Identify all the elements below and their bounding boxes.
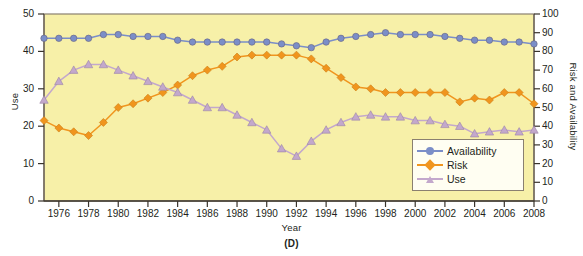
y-left-tick-50: 50 — [8, 8, 34, 19]
y-right-tick-10: 10 — [542, 176, 572, 187]
data-point — [427, 31, 433, 37]
chart-figure: Use Risk and Availability Year (D) 01020… — [0, 0, 583, 256]
legend-swatch-use — [417, 173, 443, 185]
data-point — [70, 35, 76, 41]
data-point — [293, 43, 299, 49]
data-point — [471, 37, 477, 43]
y-right-tick-40: 40 — [542, 120, 572, 131]
y-right-tick-60: 60 — [542, 83, 572, 94]
legend-swatch-risk — [417, 159, 443, 171]
y-right-tick-80: 80 — [542, 45, 572, 56]
y-left-tick-30: 30 — [8, 83, 34, 94]
data-point — [323, 39, 329, 45]
y-left-tick-20: 20 — [8, 120, 34, 131]
legend-item-availability[interactable]: Availability — [417, 144, 518, 158]
legend-label-availability: Availability — [447, 145, 496, 157]
data-point — [189, 39, 195, 45]
data-point — [264, 39, 270, 45]
legend-swatch-availability — [417, 145, 443, 157]
data-point — [249, 39, 255, 45]
data-point — [41, 35, 47, 41]
legend-marker-triangle — [426, 176, 434, 183]
panel-label: (D) — [0, 238, 583, 249]
data-point — [516, 39, 522, 45]
legend-label-risk: Risk — [447, 159, 467, 171]
data-point — [278, 41, 284, 47]
data-point — [115, 31, 121, 37]
y-right-tick-70: 70 — [542, 64, 572, 75]
data-point — [174, 37, 180, 43]
legend-marker-circle — [426, 147, 434, 155]
data-point — [486, 37, 492, 43]
y-right-tick-50: 50 — [542, 102, 572, 113]
legend-marker-diamond — [424, 159, 435, 170]
x-tick-2008: 2008 — [514, 208, 554, 219]
data-point — [457, 35, 463, 41]
chart-legend: Availability Risk Use — [412, 139, 524, 191]
y-right-tick-100: 100 — [542, 8, 572, 19]
data-point — [412, 31, 418, 37]
data-point — [353, 33, 359, 39]
data-point — [501, 39, 507, 45]
data-point — [338, 35, 344, 41]
data-point — [308, 44, 314, 50]
x-axis-title: Year — [0, 222, 583, 233]
data-point — [204, 39, 210, 45]
data-point — [100, 31, 106, 37]
y-left-tick-10: 10 — [8, 158, 34, 169]
y-left-tick-0: 0 — [8, 195, 34, 206]
data-point — [56, 35, 62, 41]
data-point — [397, 31, 403, 37]
data-point — [531, 41, 537, 47]
data-point — [85, 35, 91, 41]
data-point — [382, 30, 388, 36]
y-right-tick-30: 30 — [542, 139, 572, 150]
data-point — [145, 33, 151, 39]
data-point — [130, 33, 136, 39]
data-point — [219, 39, 225, 45]
y-right-tick-90: 90 — [542, 27, 572, 38]
legend-label-use: Use — [447, 173, 466, 185]
data-point — [234, 39, 240, 45]
legend-item-use[interactable]: Use — [417, 172, 518, 186]
y-right-tick-0: 0 — [542, 195, 572, 206]
legend-item-risk[interactable]: Risk — [417, 158, 518, 172]
data-point — [367, 31, 373, 37]
y-right-tick-20: 20 — [542, 158, 572, 169]
y-left-tick-40: 40 — [8, 45, 34, 56]
data-point — [442, 33, 448, 39]
data-point — [160, 33, 166, 39]
